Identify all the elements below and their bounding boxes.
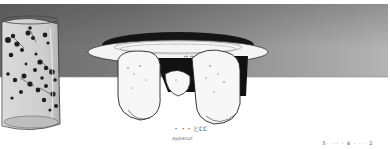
caption-text: aypanur: [172, 135, 193, 141]
sound-effect-text: ・・・とⵎⵎ: [173, 124, 207, 133]
manga-panel: ・・・とⵎⵎ aypanur 3· ··· · ⅲ · · · 2: [0, 0, 390, 149]
patterned-glass: [2, 16, 60, 130]
corner-note-text: 3· ··· · ⅲ · · · 2: [322, 140, 373, 146]
hands-under-plate: [118, 50, 248, 124]
